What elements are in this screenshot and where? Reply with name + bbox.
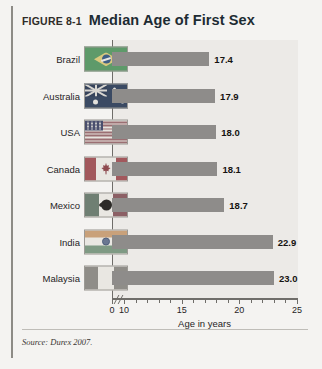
x-tick [228,298,229,303]
bar-value-mexico: 18.7 [229,200,248,211]
bar-australia [112,89,215,103]
x-tick [205,298,206,303]
x-tick [285,298,286,303]
bar-value-brazil: 17.4 [214,54,233,65]
figure-container: FIGURE 8-1Median Age of First Sex Brazil… [0,0,322,369]
x-tick [274,298,275,303]
x-tick [262,298,263,303]
x-axis-title: Age in years [112,318,297,329]
x-tick [112,298,113,304]
x-tick [124,298,125,304]
x-tick [297,298,298,304]
category-label-brazil: Brazil [22,54,80,65]
x-tick [136,298,137,303]
bar-value-india: 22.9 [278,236,297,247]
category-label-mexico: Mexico [22,200,80,211]
bar-brazil [112,52,209,66]
page-title: Median Age of First Sex [89,12,255,28]
x-tick-label: 10 [119,305,129,315]
bar-value-canada: 18.1 [222,163,241,174]
category-label-usa: USA [22,127,80,138]
axis-break-icon [115,295,124,304]
bar-india [112,235,273,249]
figure-number: FIGURE 8-1 [22,15,82,27]
table-row: Mexico18.7 [22,187,310,224]
bar-canada [112,162,217,176]
table-row: Brazil17.4 [22,41,310,78]
chart-plot-wrapper: Brazil17.4Australia17.9USA18.0Canada18.1… [22,40,310,322]
x-tick [147,298,148,303]
bar-value-australia: 17.9 [220,90,239,101]
x-tick [239,298,240,304]
bar-usa [112,125,216,139]
bar-value-usa: 18.0 [221,127,240,138]
x-tick [170,298,171,303]
x-tick [216,298,217,303]
bar-mexico [112,198,224,212]
category-label-australia: Australia [22,90,80,101]
figure-left-rule [11,6,13,358]
figure-header: FIGURE 8-1Median Age of First Sex [22,11,316,33]
x-tick [182,298,183,304]
x-tick [251,298,252,303]
category-label-canada: Canada [22,163,80,174]
table-row: USA18.0 [22,114,310,151]
category-label-malaysia: Malaysia [22,273,80,284]
category-label-india: India [22,236,80,247]
table-row: India22.9 [22,224,310,261]
table-row: Australia17.9 [22,78,310,115]
x-tick [193,298,194,303]
source-divider [22,329,308,330]
x-tick [159,298,160,303]
bar-malaysia [112,271,274,285]
bar-value-malaysia: 23.0 [279,273,298,284]
table-row: Malaysia23.0 [22,260,310,297]
x-tick-label: 0 [109,305,114,315]
x-tick-label: 15 [177,305,187,315]
x-tick-label: 25 [292,305,302,315]
table-row: Canada18.1 [22,151,310,188]
x-tick-label: 20 [234,305,244,315]
source-note: Source: Durex 2007. [22,337,92,347]
